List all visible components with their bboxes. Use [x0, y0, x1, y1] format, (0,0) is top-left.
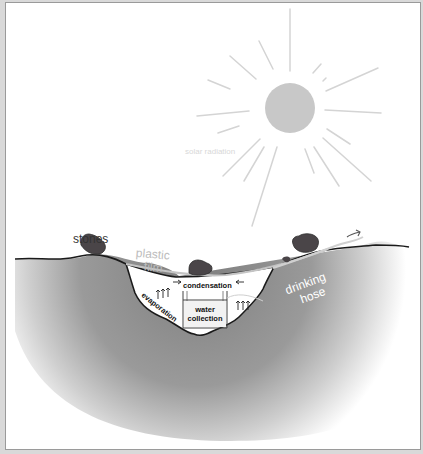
stone-right [292, 234, 318, 253]
sun-ray [314, 147, 339, 186]
stones-label: stones [73, 232, 108, 246]
sun-ray [313, 64, 321, 73]
hose-end-arrow-icon [347, 230, 360, 237]
sun-ray [208, 80, 230, 89]
sun-ray [326, 68, 378, 91]
sun-ray [223, 139, 260, 176]
sun-ray [218, 126, 239, 133]
plastic-film-label-line2: film [143, 259, 163, 275]
stone-center [189, 260, 212, 275]
ground [15, 242, 421, 441]
solar-radiation-label: solar radiation [185, 147, 235, 156]
water-collection-label-line2: collection [187, 314, 222, 323]
condensation-label: condensation [183, 281, 232, 290]
sun [265, 83, 315, 133]
sun-ray [230, 56, 256, 79]
sun-ray [327, 129, 350, 144]
sun-ray [252, 147, 277, 226]
evaporation-arrows-right [236, 301, 250, 310]
sun-ray [325, 110, 381, 113]
solar-still-diagram: solar radiation stones plastic film drin… [6, 3, 421, 450]
sun-ray [259, 41, 273, 69]
diagram-frame: solar radiation stones plastic film drin… [5, 2, 421, 450]
sun-ray [323, 138, 371, 181]
sun-ray [323, 78, 326, 81]
water-collection-label-line1: water [194, 305, 215, 314]
sun-ray [197, 111, 249, 116]
sun-ray [305, 149, 314, 173]
